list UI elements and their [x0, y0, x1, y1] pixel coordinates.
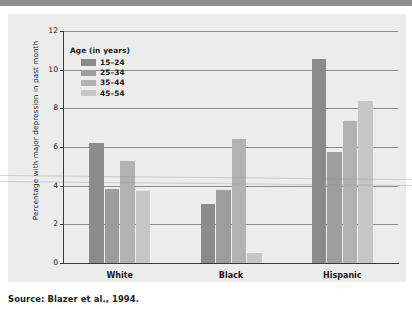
y-tick-label: 4	[18, 181, 58, 190]
legend-item-label: 45–54	[100, 89, 125, 98]
legend-item-label: 15–24	[100, 58, 125, 67]
legend-item: 25–34	[81, 68, 180, 78]
x-axis-line	[63, 263, 399, 264]
legend-item: 15–24	[81, 58, 180, 68]
x-axis-group-label: Hispanic	[287, 271, 398, 280]
bar	[201, 204, 216, 263]
legend-entries: 15–2425–3435–4445–54	[70, 58, 180, 99]
bar	[105, 189, 120, 263]
x-axis-group-label: Black	[175, 271, 286, 280]
figure-container: Percentage with major depression in past…	[0, 6, 412, 309]
y-tick-label: 12	[18, 26, 58, 35]
y-tick-label: 2	[18, 219, 58, 228]
y-tick-label: 10	[18, 65, 58, 74]
bar	[358, 101, 373, 263]
y-tick-mark	[60, 147, 64, 148]
legend-item: 35–44	[81, 78, 180, 88]
legend-item: 45–54	[81, 88, 180, 98]
legend: Age (in years) 15–2425–3435–4445–54	[70, 46, 180, 98]
source-caption: Source: Blazer et al., 1994.	[8, 294, 139, 304]
x-axis-group-label: White	[64, 271, 175, 280]
bar	[89, 143, 104, 263]
y-axis-title: Percentage with major depression in past…	[31, 11, 40, 251]
legend-swatch-icon	[81, 80, 96, 87]
bar	[312, 59, 327, 263]
bar	[232, 139, 247, 263]
bar	[343, 121, 358, 263]
legend-swatch-icon	[81, 59, 96, 66]
legend-item-label: 25–34	[100, 68, 125, 77]
bar	[120, 161, 135, 263]
chart-panel: Percentage with major depression in past…	[8, 14, 406, 282]
y-tick-mark	[60, 224, 64, 225]
y-tick-mark	[60, 108, 64, 109]
bar	[247, 253, 262, 263]
y-tick-mark	[60, 263, 64, 264]
legend-title: Age (in years)	[70, 46, 180, 55]
bar	[327, 152, 342, 263]
gridline	[64, 31, 398, 32]
y-tick-mark	[60, 31, 64, 32]
y-tick-label: 0	[18, 258, 58, 267]
y-tick-label: 8	[18, 103, 58, 112]
y-tick-label: 6	[18, 142, 58, 151]
bar	[216, 190, 231, 263]
bar	[136, 191, 151, 263]
legend-item-label: 35–44	[100, 78, 125, 87]
gridline	[64, 108, 398, 109]
legend-swatch-icon	[81, 90, 96, 97]
y-tick-mark	[60, 186, 64, 187]
legend-swatch-icon	[81, 70, 96, 77]
y-tick-mark	[60, 70, 64, 71]
